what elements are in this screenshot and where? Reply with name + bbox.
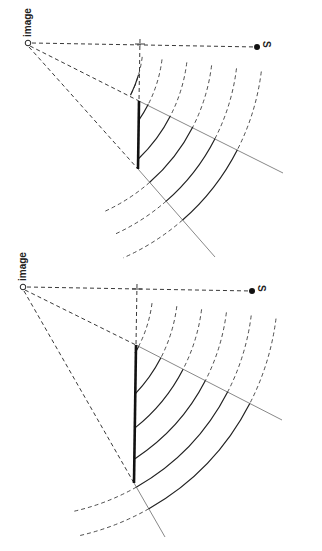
- wavefront-arc: [135, 369, 183, 428]
- virtual-ray-top: [25, 290, 136, 345]
- mirror-extension-line: [139, 39, 140, 101]
- virtual-ray-top: [30, 46, 139, 101]
- panel-bottom: imageS: [17, 252, 282, 537]
- reflected-ray-top: [136, 345, 282, 420]
- mirror-extension-line: [136, 284, 137, 345]
- wavefront-arc: [135, 358, 161, 394]
- wavefront-arc-dashed: [123, 220, 182, 258]
- wavefront-arc-dashed: [139, 303, 152, 346]
- image-label: image: [17, 252, 28, 281]
- mirror: [134, 345, 136, 483]
- wavefront-arc-dashed: [148, 59, 162, 104]
- image-point-icon: [25, 40, 31, 46]
- wavefront-arc-dashed: [215, 68, 236, 138]
- wavefront-arc: [139, 116, 171, 159]
- wavefront-arc-dashed: [72, 487, 136, 512]
- wavefront-arc: [150, 127, 193, 182]
- virtual-ray-bottom: [24, 291, 134, 483]
- mirror: [138, 101, 139, 169]
- image-point-icon: [20, 284, 26, 290]
- source-label: S: [261, 41, 272, 48]
- virtual-ray-bottom: [29, 47, 138, 169]
- panel-top: imageS: [22, 8, 283, 258]
- wavefront-arc: [137, 392, 228, 487]
- wavefront-arc-dashed: [228, 316, 252, 393]
- wavefront-arc-dashed: [131, 57, 143, 95]
- wavefront-arc-dashed: [193, 65, 212, 127]
- wavefront-arc-dashed: [78, 509, 149, 536]
- wavefront-arc-dashed: [161, 306, 177, 358]
- wavefront-arc-dashed: [113, 201, 166, 235]
- wavefront-arc: [149, 404, 250, 509]
- wavefront-arc: [166, 138, 215, 201]
- wavefront-arc-dashed: [237, 72, 261, 150]
- source-label: S: [256, 285, 267, 292]
- image-label: image: [22, 8, 33, 37]
- wavefront-arc-dashed: [205, 312, 226, 380]
- mirror-reflection-diagram: imageSimageS: [0, 0, 322, 551]
- wavefront-arc-dashed: [250, 319, 276, 404]
- source-point-icon: [249, 288, 255, 294]
- reflected-ray-bottom: [134, 483, 165, 537]
- wavefront-arc-dashed: [171, 62, 187, 115]
- reflected-ray-top: [139, 101, 283, 173]
- source-point-icon: [254, 44, 260, 50]
- wavefront-arc: [183, 150, 238, 220]
- wavefront-arc-dashed: [103, 182, 150, 212]
- wavefront-arc-dashed: [183, 309, 202, 369]
